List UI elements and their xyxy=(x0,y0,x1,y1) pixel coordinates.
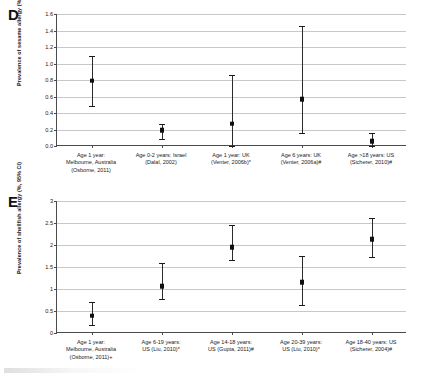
ci-lower-cap xyxy=(369,146,374,147)
y-axis-tick-mark xyxy=(54,80,57,81)
y-axis-tick-label: 0.4 xyxy=(45,110,53,116)
x-axis-tick-mark xyxy=(92,145,93,148)
y-axis-tick-label: 2.5 xyxy=(45,220,53,226)
data-point-marker xyxy=(160,284,165,289)
ci-upper-cap xyxy=(369,218,374,219)
ci-lower-cap xyxy=(89,325,94,326)
y-axis-tick-label: 0 xyxy=(50,330,53,336)
x-axis-label-line: Age >18 years: US xyxy=(328,152,414,159)
y-axis-tick-label: 0.2 xyxy=(45,127,53,133)
ci-lower-cap xyxy=(159,139,164,140)
x-axis-category-label: Age 18-40 years: US(Sicherer, 2004)# xyxy=(328,339,414,354)
y-axis-tick-mark xyxy=(54,130,57,131)
y-axis-tick-mark xyxy=(54,201,57,202)
ci-upper-cap xyxy=(89,56,94,57)
data-point-marker xyxy=(370,139,375,144)
ci-lower-cap xyxy=(299,133,304,134)
y-axis-tick-mark xyxy=(54,146,57,147)
x-axis-label-line: Age 18-40 years: US xyxy=(328,339,414,346)
y-axis-tick-mark xyxy=(54,223,57,224)
gridline xyxy=(57,64,406,65)
y-axis-tick-label: 0.5 xyxy=(45,308,53,314)
y-axis-tick-label: 1.5 xyxy=(45,264,53,270)
x-axis-tick-mark xyxy=(162,332,163,335)
axes-frame-shellfish: 00.511.522.53 xyxy=(56,201,406,333)
x-axis-label-line: (Sicherer, 2010)# xyxy=(328,159,414,166)
data-point-marker xyxy=(300,280,305,285)
y-axis-tick-label: 2 xyxy=(50,242,53,248)
ci-lower-cap xyxy=(159,299,164,300)
y-axis-tick-mark xyxy=(54,47,57,48)
gridline xyxy=(57,14,406,15)
x-axis-label-line: (Osborne, 2011)+ xyxy=(48,354,134,361)
panel-e-shellfish-allergy: E Prevalence of shellfish allergy (%, 95… xyxy=(0,187,424,374)
gridline xyxy=(57,267,406,268)
ci-lower-cap xyxy=(229,260,234,261)
data-point-marker xyxy=(230,245,235,250)
y-axis-tick-mark xyxy=(54,311,57,312)
data-point-marker xyxy=(90,79,95,84)
y-axis-tick-mark xyxy=(54,31,57,32)
data-point-marker xyxy=(160,128,165,133)
gridline xyxy=(57,31,406,32)
gridline xyxy=(57,201,406,202)
y-axis-tick-mark xyxy=(54,333,57,334)
y-axis-tick-label: 1.0 xyxy=(45,61,53,67)
confidence-interval-line xyxy=(302,26,303,133)
ci-lower-cap xyxy=(299,305,304,306)
y-axis-tick-label: 0.0 xyxy=(45,143,53,149)
y-axis-tick-mark xyxy=(54,14,57,15)
y-axis-tick-label: 0.6 xyxy=(45,94,53,100)
y-axis-tick-label: 1.6 xyxy=(45,11,53,17)
x-axis-tick-mark xyxy=(232,332,233,335)
x-axis-category-label: Age >18 years: US(Sicherer, 2010)# xyxy=(328,152,414,167)
gridline xyxy=(57,47,406,48)
confidence-interval-line xyxy=(232,75,233,146)
ci-upper-cap xyxy=(229,225,234,226)
x-axis-label-line: (Sicherer, 2004)# xyxy=(328,346,414,353)
x-axis-tick-mark xyxy=(302,332,303,335)
ci-upper-cap xyxy=(299,256,304,257)
y-axis-tick-label: 1.4 xyxy=(45,28,53,34)
ci-upper-cap xyxy=(159,263,164,264)
axes-frame-sesame: 0.00.20.40.60.81.01.21.41.6 xyxy=(56,14,406,146)
data-point-marker xyxy=(370,237,375,242)
plot-area-sesame: 0.00.20.40.60.81.01.21.41.6 Age 1 year:M… xyxy=(56,14,406,146)
y-axis-tick-mark xyxy=(54,113,57,114)
page-edge-artifact xyxy=(4,368,144,373)
panel-d-sesame-allergy: D Prevalence of sesame allergy (%, 95% C… xyxy=(0,0,424,187)
x-axis-tick-mark xyxy=(162,145,163,148)
y-axis-tick-mark xyxy=(54,289,57,290)
ci-upper-cap xyxy=(299,26,304,27)
confidence-interval-line xyxy=(232,225,233,260)
y-axis-tick-mark xyxy=(54,245,57,246)
y-axis-tick-label: 3 xyxy=(50,198,53,204)
x-axis-tick-mark xyxy=(302,145,303,148)
ci-lower-cap xyxy=(229,146,234,147)
y-axis-tick-mark xyxy=(54,64,57,65)
data-point-marker xyxy=(90,314,95,319)
ci-upper-cap xyxy=(89,302,94,303)
x-axis-tick-mark xyxy=(92,332,93,335)
data-point-marker xyxy=(300,97,305,102)
y-axis-tick-label: 0.8 xyxy=(45,77,53,83)
ci-lower-cap xyxy=(369,257,374,258)
ci-lower-cap xyxy=(89,106,94,107)
y-axis-tick-mark xyxy=(54,97,57,98)
y-axis-tick-mark xyxy=(54,267,57,268)
ci-upper-cap xyxy=(229,75,234,76)
ci-upper-cap xyxy=(369,133,374,134)
x-axis-label-line: (Osborne, 2011) xyxy=(48,167,134,174)
gridline xyxy=(57,311,406,312)
gridline xyxy=(57,223,406,224)
y-axis-label-sesame: Prevalence of sesame allergy (%, 95% CI) xyxy=(16,0,22,94)
x-axis-tick-mark xyxy=(372,332,373,335)
y-axis-tick-label: 1.2 xyxy=(45,44,53,50)
y-axis-label-shellfish: Prevalence of shellfish allergy (%, 95% … xyxy=(16,156,22,281)
plot-area-shellfish: 00.511.522.53 Age 1 year:Melbourne, Aust… xyxy=(56,201,406,333)
confidence-interval-line xyxy=(162,263,163,299)
gridline xyxy=(57,289,406,290)
ci-upper-cap xyxy=(159,124,164,125)
y-axis-tick-label: 1 xyxy=(50,286,53,292)
data-point-marker xyxy=(230,121,235,126)
